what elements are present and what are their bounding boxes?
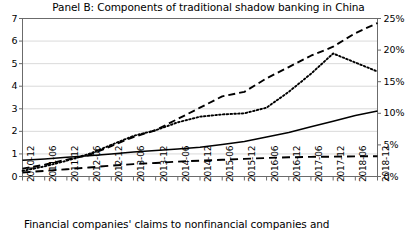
x-axis-tick-label: 2017-06 [315,145,324,181]
x-axis-tick-label: 2014-12 [204,145,213,181]
x-axis-tick-label: 2018-12 [382,145,391,181]
x-axis-tick-label: 2017-12 [337,145,346,181]
y-axis-tick-label: 4 [2,81,18,91]
x-axis-tick-label: 2012-06 [93,145,102,181]
y2-axis-tick-label: 10% [384,108,417,118]
x-axis-tick-label: 2018-06 [359,145,368,181]
x-axis-tick-label: 2013-12 [160,145,169,181]
x-axis-tick-label: 2014-06 [182,145,191,181]
x-axis-tick-label: 2016-06 [271,145,280,181]
x-axis-tick-label: 2011-06 [49,145,58,181]
y2-axis-tick-label: 25% [384,14,417,24]
chart-figure: Panel B: Components of traditional shado… [0,0,417,231]
x-axis-tick-label: 2010-12 [27,145,36,181]
y-axis-tick-label: 2 [2,126,18,136]
y2-axis-tick-label: 20% [384,45,417,55]
y-axis-tick-label: 5 [2,59,18,69]
y-axis-tick-label: 6 [2,36,18,46]
plot-area [0,0,417,231]
chart-caption: Financial companies' claims to nonfinanc… [24,218,404,231]
x-axis-tick-label: 2015-12 [248,145,257,181]
x-axis-tick-label: 2011-12 [71,145,80,181]
x-axis-tick-label: 2015-06 [226,145,235,181]
y2-axis-tick-label: 15% [384,77,417,87]
y-axis-tick-label: 1 [2,149,18,159]
x-axis-tick-label: 2016-12 [293,145,302,181]
x-axis-tick-label: 2013-06 [137,145,146,181]
y-axis-tick-label: 3 [2,104,18,114]
x-axis-tick-label: 2012-12 [115,145,124,181]
y-axis-tick-label: 0 [2,172,18,182]
y-axis-tick-label: 7 [2,14,18,24]
gridlines [23,19,378,154]
